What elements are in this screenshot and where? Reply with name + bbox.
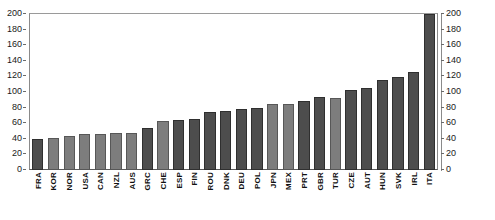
bar-prt[interactable] [298, 101, 309, 170]
x-tick-label-dnk: DNK [221, 172, 230, 190]
bar-can[interactable] [95, 134, 106, 170]
bar-nzl[interactable] [110, 133, 121, 170]
x-tick-label-can: CAN [96, 172, 105, 190]
x-tick-label-ita: ITA [425, 172, 434, 185]
bar-hun[interactable] [377, 80, 388, 170]
bar-slot [406, 14, 422, 170]
y-tick-mark-left [23, 75, 26, 76]
x-tick-label-prt: PRT [299, 172, 308, 189]
x-axis-labels: FRAKORNORUSACANNZLAUSGRCCHEESPFINROUDNKD… [30, 172, 437, 220]
bar-slot [281, 14, 297, 170]
bar-slot [421, 14, 437, 170]
x-label-slot: TUR [327, 172, 343, 220]
x-label-slot: ESP [171, 172, 187, 220]
x-label-slot: ITA [421, 172, 437, 220]
y-tick-mark-right [441, 107, 444, 108]
x-label-slot: FRA [30, 172, 46, 220]
bar-che[interactable] [157, 121, 168, 170]
y-tick-mark-right [441, 153, 444, 154]
bar-kor[interactable] [48, 138, 59, 170]
y-tick-mark-right [441, 75, 444, 76]
bar-slot [390, 14, 406, 170]
x-tick-label-pol: POL [253, 172, 262, 189]
bar-slot [296, 14, 312, 170]
x-tick-label-fra: FRA [33, 172, 42, 189]
x-tick-label-aus: AUS [127, 172, 136, 190]
y-tick-mark-right [441, 44, 444, 45]
y-tick-mark-right [441, 29, 444, 30]
bar-mex[interactable] [283, 104, 294, 170]
bar-grc[interactable] [142, 128, 153, 170]
x-label-slot: AUS [124, 172, 140, 220]
x-label-slot: KOR [46, 172, 62, 220]
x-label-slot: POL [249, 172, 265, 220]
x-tick-label-usa: USA [80, 172, 89, 190]
bar-tur[interactable] [330, 98, 341, 170]
y-axis-left: 200180160140120100806040200 [0, 13, 26, 170]
y-tick-mark-right [441, 91, 444, 92]
bar-jpn[interactable] [267, 104, 278, 170]
bar-slot [187, 14, 203, 170]
bar-usa[interactable] [79, 134, 90, 170]
x-tick-label-che: CHE [159, 172, 168, 190]
x-tick-label-deu: DEU [237, 172, 246, 190]
x-tick-label-tur: TUR [331, 172, 340, 189]
x-label-slot: GRC [140, 172, 156, 220]
bar-aut[interactable] [361, 88, 372, 170]
x-label-slot: CHE [155, 172, 171, 220]
y-tick-mark-left [23, 169, 26, 170]
bar-fin[interactable] [189, 119, 200, 170]
bar-nor[interactable] [64, 136, 75, 170]
x-label-slot: ROU [202, 172, 218, 220]
bar-fra[interactable] [32, 139, 43, 170]
bar-slot [265, 14, 281, 170]
bar-deu[interactable] [236, 109, 247, 170]
bar-slot [312, 14, 328, 170]
bar-svk[interactable] [392, 77, 403, 170]
x-tick-label-kor: KOR [49, 172, 58, 190]
bar-aus[interactable] [126, 133, 137, 170]
bar-slot [218, 14, 234, 170]
x-tick-label-rou: ROU [206, 172, 215, 190]
x-label-slot: NZL [108, 172, 124, 220]
y-tick-mark-left [23, 91, 26, 92]
bar-slot [124, 14, 140, 170]
bar-gbr[interactable] [314, 97, 325, 170]
bar-slot [77, 14, 93, 170]
x-tick-label-mex: MEX [284, 172, 293, 190]
bar-slot [327, 14, 343, 170]
y-tick-mark-left [23, 138, 26, 139]
bar-slot [140, 14, 156, 170]
y-tick-mark-left [23, 60, 26, 61]
x-tick-label-jpn: JPN [268, 172, 277, 188]
x-label-slot: CZE [343, 172, 359, 220]
x-label-slot: CAN [93, 172, 109, 220]
x-tick-label-aut: AUT [362, 172, 371, 189]
bar-esp[interactable] [173, 120, 184, 170]
bar-slot [249, 14, 265, 170]
y-tick-mark-left [23, 44, 26, 45]
y-tick-mark-right [441, 138, 444, 139]
x-tick-label-esp: ESP [174, 172, 183, 189]
bar-slot [374, 14, 390, 170]
x-tick-label-nor: NOR [65, 172, 74, 190]
y-tick-mark-right [441, 122, 444, 123]
bar-slot [234, 14, 250, 170]
bar-dnk[interactable] [220, 111, 231, 170]
x-tick-label-cze: CZE [346, 172, 355, 189]
y-tick-mark-right [441, 60, 444, 61]
y-tick-mark-left [23, 13, 26, 14]
x-label-slot: PRT [296, 172, 312, 220]
bar-chart: 200180160140120100806040200 200180160140… [0, 0, 495, 220]
bar-rou[interactable] [204, 112, 215, 171]
y-tick-mark-left [23, 107, 26, 108]
y-tick-mark-left [23, 122, 26, 123]
bar-cze[interactable] [345, 90, 356, 170]
x-label-slot: NOR [61, 172, 77, 220]
x-tick-label-grc: GRC [143, 172, 152, 190]
bar-irl[interactable] [408, 72, 419, 170]
bar-pol[interactable] [251, 108, 262, 170]
bar-slot [30, 14, 46, 170]
bar-ita[interactable] [424, 14, 435, 170]
x-tick-label-fin: FIN [190, 172, 199, 186]
